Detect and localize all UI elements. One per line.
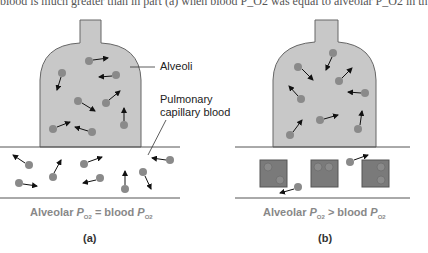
pulmonary-label-line2: capillary blood xyxy=(160,106,230,119)
capillary-leader xyxy=(148,120,166,155)
panel-label-b: (b) xyxy=(318,232,332,244)
panel-label-a: (a) xyxy=(83,232,96,244)
pulmonary-label-line1: Pulmonary xyxy=(160,93,213,106)
alveoli-label: Alveoli xyxy=(160,60,192,73)
caption-a: Alveolar PO2 = blood PO2 xyxy=(30,206,153,220)
caption-b: Alveolar PO2 > blood PO2 xyxy=(263,206,386,220)
